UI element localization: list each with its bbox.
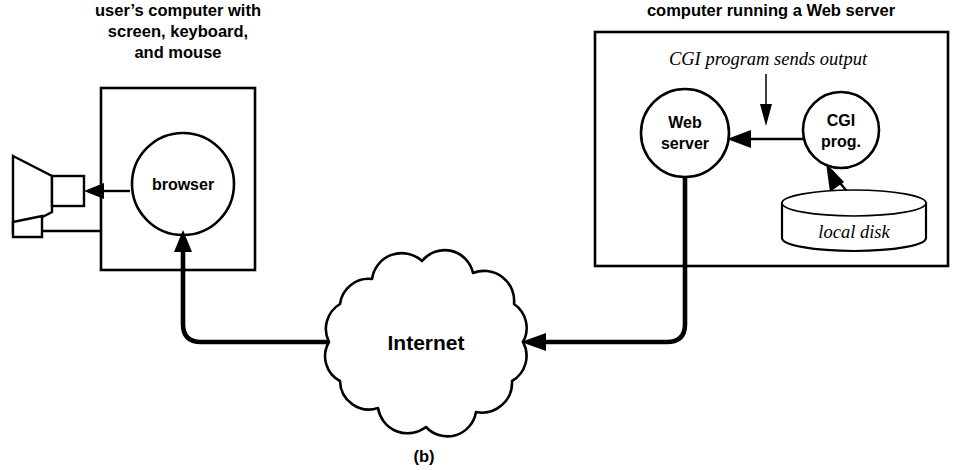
- client-heading-line-2: screen, keyboard,: [108, 22, 248, 40]
- cgi-program-node: CGI prog.: [803, 92, 879, 168]
- keyboard-icon: [13, 216, 101, 237]
- edge-browser-to-monitor: [84, 183, 130, 199]
- web-server-node-label-line-1: Web: [668, 114, 702, 131]
- edge-internet-to-browser: [174, 230, 330, 342]
- architecture-diagram: user’s computer with screen, keyboard, a…: [0, 0, 953, 470]
- client-heading-line-3: and mouse: [134, 43, 221, 61]
- figure-container: user’s computer with screen, keyboard, a…: [0, 0, 953, 470]
- client-heading-line-1: user’s computer with: [95, 1, 261, 19]
- browser-node-label: browser: [152, 176, 214, 193]
- edge-webserver-to-internet: [521, 176, 685, 351]
- server-heading-label: computer running a Web server: [647, 1, 896, 19]
- browser-node: browser: [132, 133, 234, 235]
- figure-caption: (b): [413, 447, 434, 465]
- internet-cloud-label: Internet: [387, 331, 464, 354]
- local-disk-node: local disk: [782, 190, 926, 251]
- local-disk-node-label: local disk: [818, 222, 890, 242]
- server-heading: computer running a Web server: [647, 1, 896, 19]
- cgi-program-node-label-line-2: prog.: [821, 133, 861, 150]
- cgi-program-node-label-line-1: CGI: [827, 112, 855, 129]
- client-heading: user’s computer with screen, keyboard, a…: [95, 1, 261, 61]
- internet-cloud: Internet: [325, 250, 527, 436]
- web-server-node-label-line-2: server: [661, 135, 709, 152]
- web-server-node: Web server: [641, 89, 729, 177]
- cgi-output-annotation-label: CGI program sends output: [669, 49, 868, 69]
- edge-cgi-to-webserver: [727, 130, 805, 148]
